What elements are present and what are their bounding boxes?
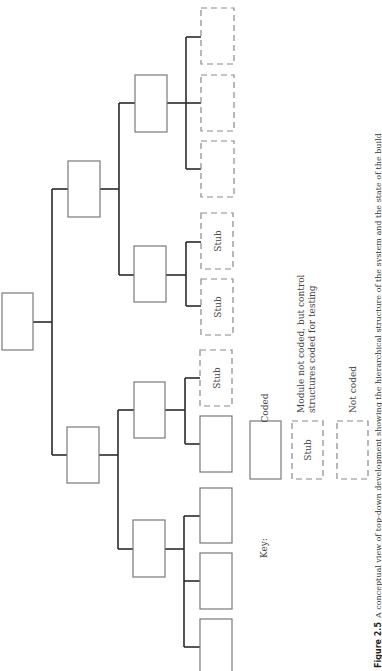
tree-connectors [33, 37, 201, 647]
level2-module-box [134, 382, 165, 438]
leaf-module-not-coded [201, 8, 234, 64]
leaf-module-coded [200, 416, 232, 472]
leaf-module-not-coded [201, 141, 234, 197]
legend-stub-label-line1: Module not coded, but control [296, 274, 306, 413]
caption-text: A conceptual view of top-down developmen… [374, 133, 382, 619]
stub-label: Stub [213, 296, 223, 318]
leaf-module-not-coded [201, 75, 234, 131]
level1-module-box-upper [68, 161, 100, 217]
level2-module-box [134, 246, 166, 302]
leaf-module-coded [200, 488, 232, 543]
figure-caption: Figure 2.5 A conceptual view of top-down… [374, 133, 382, 668]
level2-module-box [135, 75, 167, 132]
level2-module-box [133, 520, 165, 577]
caption-number: Figure 2.5 [374, 622, 382, 668]
legend-not-coded-label: Not coded [348, 366, 358, 413]
legend-stub-swatch-label: Stub [303, 439, 313, 461]
top-down-development-diagram: Stub Stub Stub Key: Coded Stub Module no… [0, 0, 382, 671]
stub-label: Stub [213, 230, 223, 252]
legend-title: Key: [259, 538, 269, 558]
level1-module-box-lower [67, 427, 99, 483]
leaf-module-coded [200, 553, 232, 609]
legend-coded-label: Coded [260, 393, 270, 422]
legend-coded-swatch [250, 421, 281, 479]
legend: Key: Coded Stub Module not coded, but co… [250, 274, 368, 558]
legend-stub-label-line2: structures coded for testing [307, 285, 317, 413]
legend-not-coded-swatch [337, 421, 368, 479]
leaf-module-coded [200, 619, 232, 671]
root-module-box [2, 293, 33, 350]
stub-label: Stub [212, 367, 222, 389]
